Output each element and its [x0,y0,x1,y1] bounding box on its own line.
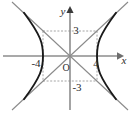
hyperbola-svg: y x O 3 -3 -4 4 [0,0,132,114]
x-axis [3,52,124,60]
y-axis-arrow [66,6,73,13]
y-tick-label-positive: 3 [73,24,79,36]
y-tick-label-negative: -3 [72,81,82,93]
origin-label: O [62,62,69,73]
y-axis-label: y [60,5,66,17]
hyperbola-figure: y x O 3 -3 -4 4 [0,0,132,114]
x-axis-label: x [121,54,127,66]
x-tick-label-negative: -4 [31,57,41,69]
x-tick-label-positive: 4 [93,57,99,69]
